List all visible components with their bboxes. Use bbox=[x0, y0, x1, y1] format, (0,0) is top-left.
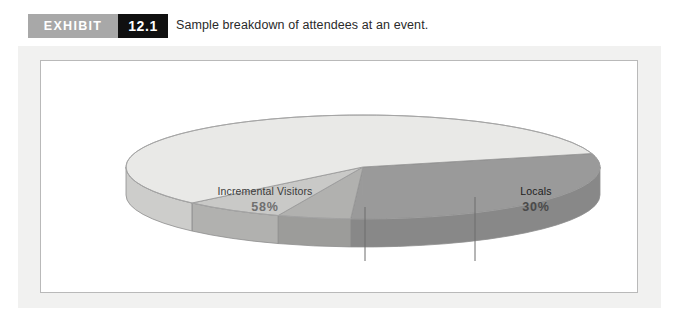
exhibit-header: EXHIBIT 12.1 bbox=[28, 14, 168, 38]
exhibit-caption: Sample breakdown of attendees at an even… bbox=[176, 18, 428, 32]
exhibit-number-badge: 12.1 bbox=[118, 14, 168, 38]
figure-outer-frame: Incremental Visitors 58% Locals 30% Casu… bbox=[18, 46, 661, 308]
pie-chart-3d bbox=[41, 61, 637, 292]
exhibit-label-badge: EXHIBIT bbox=[28, 14, 118, 38]
slice-side-time-switchers bbox=[278, 216, 351, 247]
exhibit-page: EXHIBIT 12.1 Sample breakdown of attende… bbox=[0, 0, 679, 325]
figure-panel: Incremental Visitors 58% Locals 30% Casu… bbox=[40, 60, 638, 293]
